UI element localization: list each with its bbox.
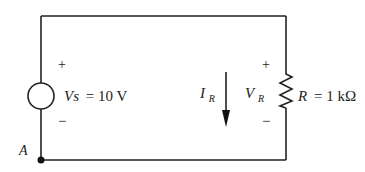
resistor-minus-label: −	[262, 113, 270, 129]
current-label: I R	[199, 85, 215, 104]
resistor-icon	[280, 72, 292, 108]
voltage-symbol: V	[245, 85, 256, 101]
voltage-source-icon	[28, 83, 54, 109]
resistor-plus-label: +	[262, 57, 270, 72]
resistor-symbol: R	[297, 88, 307, 104]
source-value-label: Vs = 10 V	[64, 88, 127, 104]
voltage-subscript: R	[257, 93, 264, 104]
current-subscript: R	[208, 93, 215, 104]
current-symbol: I	[199, 85, 206, 101]
source-symbol: Vs	[64, 88, 79, 104]
node-a-dot	[38, 157, 45, 164]
node-a-label: A	[18, 143, 28, 158]
current-arrow-icon	[222, 72, 230, 127]
source-plus-label: +	[58, 57, 66, 72]
source-equals: = 10 V	[86, 88, 128, 104]
circuit-diagram: + − Vs = 10 V A I R V R + − R = 1 kΩ	[0, 0, 365, 172]
resistor-value-label: R = 1 kΩ	[297, 88, 356, 104]
source-minus-label: −	[58, 113, 66, 129]
resistor-equals: = 1 kΩ	[314, 88, 356, 104]
voltage-label: V R	[245, 85, 264, 104]
